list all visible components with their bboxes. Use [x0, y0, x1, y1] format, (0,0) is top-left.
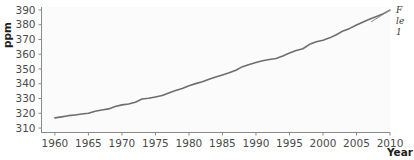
y-tick-label: 380: [15, 18, 35, 30]
x-axis-title: Year: [386, 146, 414, 158]
y-tick-label: 320: [15, 107, 35, 119]
y-tick-label: 310: [15, 122, 35, 134]
x-axis: 1960196519701975198019851990199520002005…: [41, 133, 403, 149]
annotation-line-1: F: [395, 5, 403, 15]
y-tick-label: 390: [15, 4, 35, 16]
annotation-line-3: 1: [396, 27, 402, 37]
x-tick-label: 1995: [276, 137, 303, 149]
y-tick-label: 350: [15, 63, 35, 75]
y-tick-label: 330: [15, 92, 35, 104]
y-tick-label: 370: [15, 33, 35, 45]
x-tick-label: 1980: [176, 137, 203, 149]
y-tick-label: 340: [15, 77, 35, 89]
x-tick-label: 1965: [75, 137, 102, 149]
x-tick-label: 1985: [209, 137, 236, 149]
x-tick-label: 1970: [109, 137, 136, 149]
x-tick-label: 1975: [142, 137, 169, 149]
plot-background: [41, 7, 390, 132]
y-axis-title: ppm: [1, 22, 13, 48]
x-tick-label: 2000: [310, 137, 337, 149]
annotation-line-2: le: [396, 16, 404, 26]
x-tick-label: 1990: [243, 137, 270, 149]
x-tick-label-group: 1960196519701975198019851990199520002005…: [42, 137, 404, 149]
y-tick-label: 360: [15, 48, 35, 60]
y-axis: 310320330340350360370380390: [15, 4, 41, 134]
x-tick-label: 2005: [343, 137, 370, 149]
x-tick-label: 1960: [42, 137, 69, 149]
y-tick-label-group: 310320330340350360370380390: [15, 4, 35, 134]
co2-line-chart: 310320330340350360370380390 196019651970…: [0, 0, 414, 160]
chart-canvas: 310320330340350360370380390 196019651970…: [0, 0, 414, 160]
